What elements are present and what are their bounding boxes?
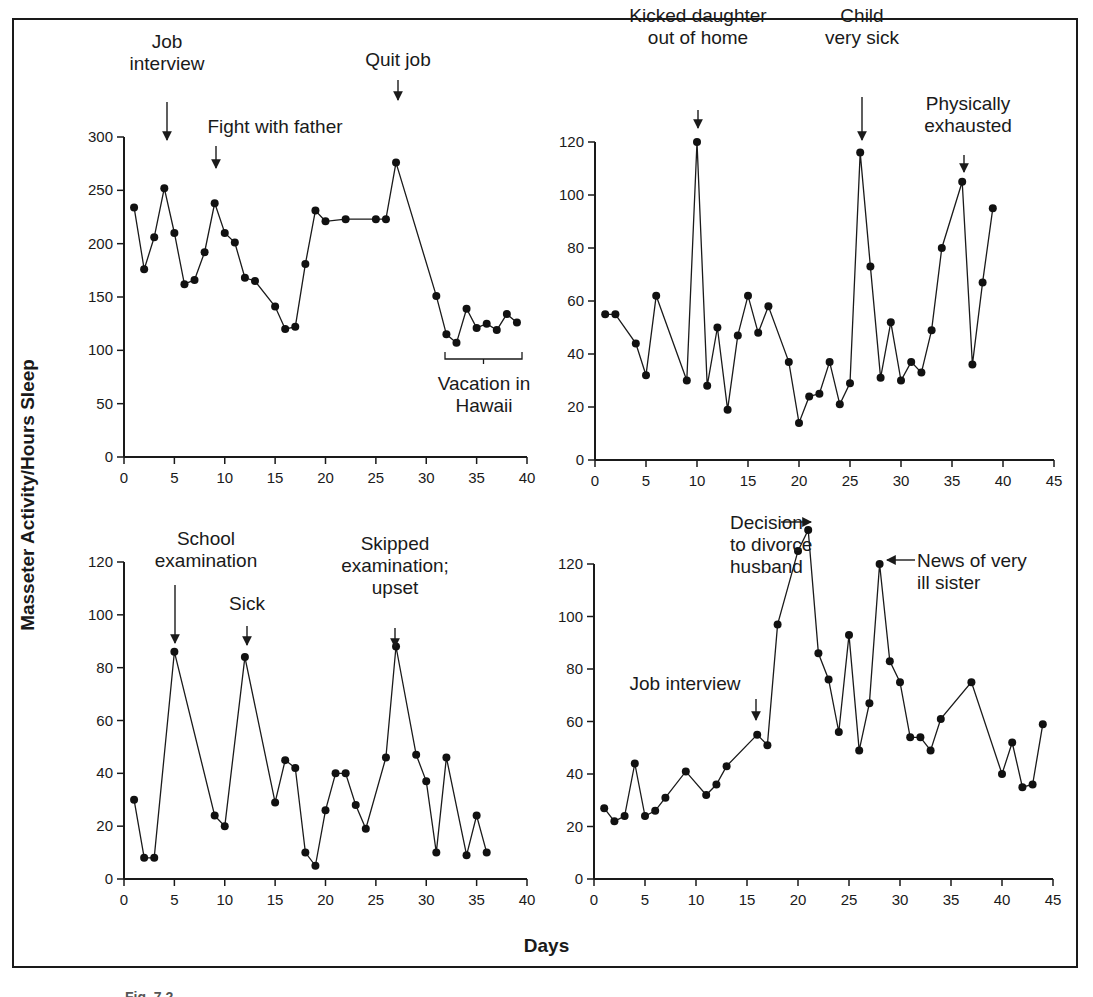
- data-point: [601, 310, 609, 318]
- svg-text:Fight with father: Fight with father: [207, 116, 343, 137]
- x-tick-label: 25: [368, 469, 385, 486]
- y-tick-label: 60: [96, 712, 113, 729]
- data-point: [271, 303, 279, 311]
- x-tick-label: 10: [216, 891, 233, 908]
- data-point: [856, 149, 864, 157]
- series-line: [134, 647, 487, 866]
- data-point: [1029, 781, 1037, 789]
- data-point: [814, 649, 822, 657]
- annotation: Vacation inHawaii: [438, 352, 531, 416]
- svg-text:Sick: Sick: [229, 593, 265, 614]
- annotation: Job interview: [630, 673, 756, 720]
- data-point: [452, 339, 460, 347]
- x-tick-label: 20: [791, 472, 808, 489]
- data-point: [744, 292, 752, 300]
- x-tick-label: 5: [642, 472, 650, 489]
- svg-text:Jobinterview: Jobinterview: [130, 31, 205, 74]
- x-tick-label: 35: [468, 469, 485, 486]
- x-axis-label: Days: [0, 935, 1093, 957]
- data-point: [804, 526, 812, 534]
- data-point: [876, 560, 884, 568]
- data-point: [998, 770, 1006, 778]
- svg-text:News of veryill sister: News of veryill sister: [917, 550, 1027, 593]
- x-tick-label: 0: [590, 891, 598, 908]
- data-point: [362, 825, 370, 833]
- data-point: [886, 657, 894, 665]
- y-tick-label: 120: [559, 133, 584, 150]
- annotation: Kicked daughterout of home: [629, 5, 767, 128]
- annotation: Fight with father: [207, 116, 343, 168]
- y-axis-label-text: Masseter Activity/Hours Sleep: [17, 359, 39, 631]
- data-point: [917, 369, 925, 377]
- data-point: [201, 248, 209, 256]
- data-point: [382, 215, 390, 223]
- y-tick-label: 80: [96, 659, 113, 676]
- data-point: [632, 339, 640, 347]
- data-point: [1039, 720, 1047, 728]
- panel-bottom-right: 051015202530354045020406080100120Job int…: [558, 512, 1061, 908]
- data-point: [442, 753, 450, 761]
- x-tick-label: 10: [688, 891, 705, 908]
- data-point: [907, 358, 915, 366]
- series-line: [605, 142, 993, 423]
- data-point: [150, 233, 158, 241]
- data-point: [968, 361, 976, 369]
- series-line: [134, 163, 517, 343]
- data-point: [1008, 739, 1016, 747]
- data-point: [241, 653, 249, 661]
- data-point: [865, 699, 873, 707]
- annotation: Quit job: [365, 49, 430, 100]
- data-point: [652, 292, 660, 300]
- data-point: [693, 138, 701, 146]
- data-point: [724, 406, 732, 414]
- x-tick-label: 30: [418, 891, 435, 908]
- data-point: [938, 244, 946, 252]
- data-point: [631, 760, 639, 768]
- x-tick-label: 30: [418, 469, 435, 486]
- y-tick-label: 40: [567, 345, 584, 362]
- data-point: [332, 769, 340, 777]
- data-point: [503, 310, 511, 318]
- x-tick-label: 15: [739, 891, 756, 908]
- data-point: [835, 728, 843, 736]
- data-point: [958, 178, 966, 186]
- data-point: [795, 419, 803, 427]
- data-point: [513, 319, 521, 327]
- data-point: [815, 390, 823, 398]
- x-tick-label: 40: [519, 469, 536, 486]
- x-tick-label: 5: [641, 891, 649, 908]
- y-tick-label: 200: [88, 235, 113, 252]
- data-point: [877, 374, 885, 382]
- x-tick-label: 20: [790, 891, 807, 908]
- data-point: [180, 280, 188, 288]
- data-point: [897, 377, 905, 385]
- y-tick-label: 80: [566, 660, 583, 677]
- data-point: [221, 822, 229, 830]
- data-point: [140, 854, 148, 862]
- data-point: [641, 812, 649, 820]
- data-point: [805, 392, 813, 400]
- x-tick-label: 10: [689, 472, 706, 489]
- y-tick-label: 60: [566, 713, 583, 730]
- y-tick-label: 50: [96, 395, 113, 412]
- data-point: [372, 215, 380, 223]
- data-point: [866, 263, 874, 271]
- data-point: [896, 678, 904, 686]
- x-tick-label: 35: [943, 891, 960, 908]
- data-point: [610, 817, 618, 825]
- annotation: Skippedexamination;upset: [341, 533, 449, 647]
- y-tick-label: 20: [567, 398, 584, 415]
- data-point: [713, 324, 721, 332]
- data-point: [702, 791, 710, 799]
- data-point: [734, 331, 742, 339]
- x-tick-label: 35: [944, 472, 961, 489]
- data-point: [322, 806, 330, 814]
- x-tick-label: 0: [120, 469, 128, 486]
- data-point: [170, 648, 178, 656]
- annotation: Jobinterview: [130, 31, 205, 140]
- svg-text:Quit job: Quit job: [365, 49, 430, 70]
- data-point: [989, 204, 997, 212]
- data-point: [763, 741, 771, 749]
- y-tick-label: 120: [558, 555, 583, 572]
- data-point: [785, 358, 793, 366]
